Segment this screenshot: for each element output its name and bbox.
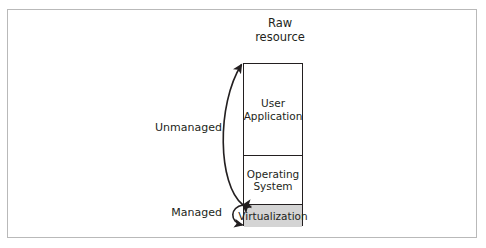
stack-layer-virtualization-label: Virtualization xyxy=(238,210,307,223)
stack-layer-user-application: User Application xyxy=(244,64,302,155)
figure-title-line-1: Raw xyxy=(232,16,328,30)
stack-layer-operating-system-line-2: System xyxy=(247,180,300,193)
managed-label: Managed xyxy=(122,206,222,219)
stack-layer-operating-system-label: Operating System xyxy=(247,168,300,193)
figure-title: Raw resource xyxy=(232,16,328,44)
stack-layer-operating-system: Operating System xyxy=(244,155,302,204)
stack-layer-virtualization-line-1: Virtualization xyxy=(238,210,307,223)
figure-root: Raw resource User Application Operating … xyxy=(0,0,486,248)
stack-layer-user-application-line-1: User xyxy=(244,97,303,110)
unmanaged-label: Unmanaged xyxy=(112,121,222,134)
stack-layer-virtualization: Virtualization xyxy=(244,204,302,227)
stack-layer-user-application-line-2: Application xyxy=(244,110,303,123)
stack-layer-operating-system-line-1: Operating xyxy=(247,168,300,181)
stack-layer-user-application-label: User Application xyxy=(244,97,303,122)
resource-stack: User Application Operating System Virtua… xyxy=(243,63,303,226)
figure-title-line-2: resource xyxy=(232,30,328,44)
